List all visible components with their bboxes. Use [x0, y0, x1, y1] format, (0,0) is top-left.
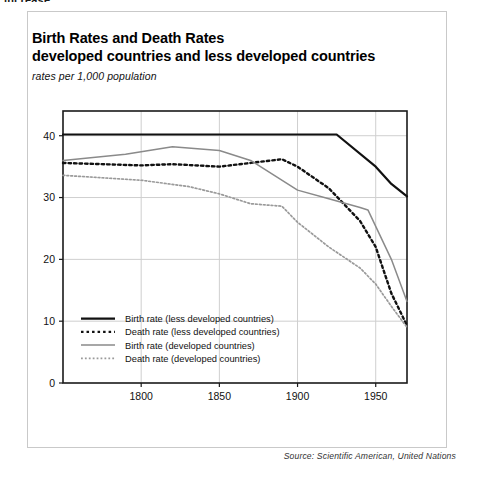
source-note: Source: Scientific American, United Nati… — [284, 451, 456, 461]
series-line-2 — [63, 147, 407, 302]
x-axis-tick-label: 1800 — [130, 390, 154, 402]
y-axis-tick-label: 30 — [43, 191, 55, 203]
legend-label-1: Death rate (less developed countries) — [125, 327, 280, 337]
y-axis-tick-label: 40 — [43, 130, 55, 142]
x-axis-tick-label: 1850 — [208, 390, 232, 402]
legend-label-2: Birth rate (developed countries) — [125, 341, 255, 351]
series-line-3 — [63, 175, 407, 327]
series-line-1 — [63, 159, 407, 325]
y-axis-tick-labels: 010203040 — [43, 130, 55, 389]
chart-title-line-2: developed countries and less developed c… — [32, 48, 375, 64]
x-axis-tick-label: 1950 — [364, 390, 388, 402]
x-axis-tick-labels: 1800185019001950 — [130, 390, 388, 402]
y-axis-tick-label: 0 — [49, 377, 55, 389]
legend-label-0: Birth rate (less developed countries) — [125, 314, 274, 324]
x-axis-tick-label: 1900 — [286, 390, 310, 402]
chart-title-line-1: Birth Rates and Death Rates — [32, 30, 224, 46]
title-block: Birth Rates and Death Rates developed co… — [32, 30, 402, 82]
chart-subtitle: rates per 1,000 population — [32, 70, 402, 82]
page-title: Birth Rates and Death Rates developed co… — [32, 30, 402, 65]
legend-label-3: Death rate (developed countries) — [125, 354, 260, 364]
y-axis-tick-label: 20 — [43, 253, 55, 265]
clipped-page-text: increase. — [4, 0, 54, 2]
y-axis-tick-label: 10 — [43, 315, 55, 327]
line-chart-svg: 1800185019001950 010203040 Birth rate (l… — [35, 103, 415, 428]
chart-plot-area: 1800185019001950 010203040 Birth rate (l… — [35, 103, 415, 428]
series-layer — [63, 134, 407, 327]
